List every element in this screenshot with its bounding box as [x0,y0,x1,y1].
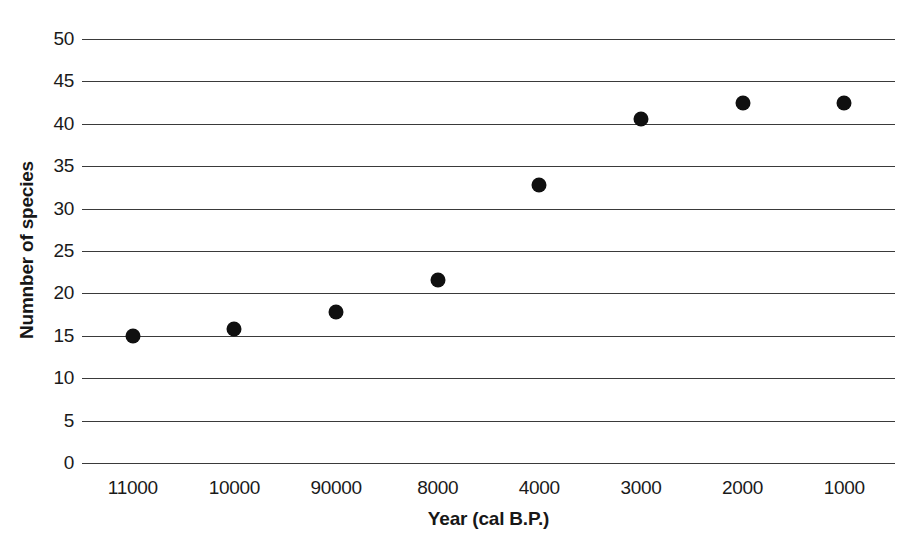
gridline [82,421,895,422]
x-tick-label: 4000 [519,477,560,499]
y-tick-label: 20 [28,282,74,304]
data-point[interactable] [125,328,140,343]
y-tick-label: 50 [28,28,74,50]
y-tick-label: 25 [28,240,74,262]
data-point[interactable] [837,95,852,110]
data-point[interactable] [329,305,344,320]
y-tick-label: 10 [28,367,74,389]
y-tick-label: 5 [28,410,74,432]
y-tick-label: 0 [28,452,74,474]
gridline [82,81,895,82]
data-point[interactable] [735,95,750,110]
x-tick-label: 8000 [417,477,458,499]
x-tick-label: 10000 [209,477,260,499]
gridline [82,124,895,125]
gridline [82,293,895,294]
x-axis-title: Year (cal B.P.) [82,508,895,530]
x-tick-label: 11000 [108,477,158,499]
x-tick-label: 90000 [310,477,361,499]
gridline [82,463,895,464]
gridline [82,39,895,40]
x-tick-label: 3000 [620,477,661,499]
data-point[interactable] [227,322,242,337]
x-tick-label: 2000 [722,477,763,499]
x-tick-label: 1000 [824,477,865,499]
gridline [82,209,895,210]
y-tick-label: 45 [28,70,74,92]
x-axis-tick-labels: 11000100009000080004000300020001000 [82,477,895,503]
gridline [82,378,895,379]
y-tick-label: 35 [28,155,74,177]
data-point[interactable] [532,177,547,192]
chart-container: Numnber of species 05101520253035404550 … [0,0,903,554]
y-tick-label: 40 [28,113,74,135]
data-point[interactable] [430,272,445,287]
gridline [82,166,895,167]
data-point[interactable] [633,111,648,126]
y-tick-label: 15 [28,325,74,347]
y-tick-label: 30 [28,198,74,220]
y-axis-tick-labels: 05101520253035404550 [14,39,74,463]
gridline [82,251,895,252]
gridline [82,336,895,337]
plot-area [82,39,895,463]
